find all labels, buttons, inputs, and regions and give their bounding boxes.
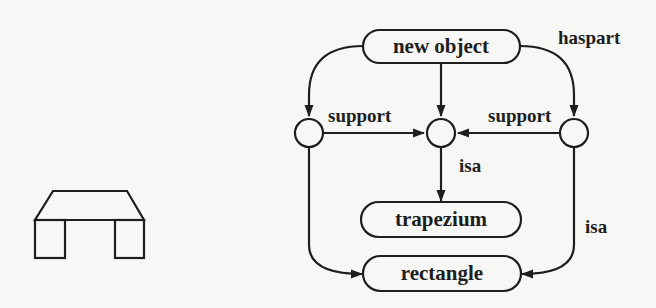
node-trapezium: trapezium bbox=[361, 202, 521, 237]
left-leg-rectangle-shape bbox=[35, 220, 65, 258]
right-leg-rectangle-shape bbox=[115, 220, 144, 258]
isa-right-edge-label: isa bbox=[585, 216, 608, 237]
semantic-network-diagram: new object trapezium rectangle haspart s… bbox=[0, 0, 656, 308]
trapezium-label: trapezium bbox=[395, 207, 488, 231]
edges bbox=[309, 46, 574, 274]
isa-middle-edge-label: isa bbox=[459, 155, 482, 176]
edge-left-part-to-rectangle bbox=[309, 147, 362, 274]
new-object-label: new object bbox=[393, 34, 489, 58]
node-new-object: new object bbox=[363, 30, 520, 63]
edge-right-isa-rectangle bbox=[522, 147, 574, 274]
right-part-circle bbox=[560, 119, 588, 147]
support-right-edge-label: support bbox=[488, 105, 552, 126]
left-part-circle bbox=[295, 119, 323, 147]
node-rectangle: rectangle bbox=[363, 256, 521, 291]
support-left-edge-label: support bbox=[328, 105, 392, 126]
rectangle-label: rectangle bbox=[401, 261, 483, 285]
middle-part-circle bbox=[427, 119, 455, 147]
haspart-edge-label: haspart bbox=[558, 27, 621, 48]
trapezium-top-shape bbox=[35, 191, 144, 220]
table-object-illustration bbox=[35, 191, 144, 258]
